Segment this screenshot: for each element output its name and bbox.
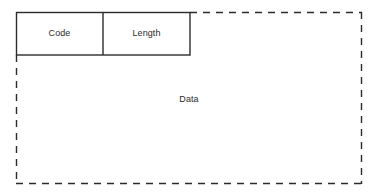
code-field-label: Code: [16, 29, 103, 38]
packet-format-diagram: Code Length Data: [0, 0, 381, 196]
data-field-label: Data: [16, 95, 362, 104]
length-field-label: Length: [103, 29, 190, 38]
